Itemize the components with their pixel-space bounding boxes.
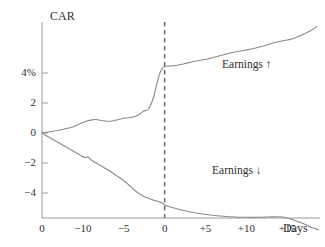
x-tick-label-5: +10 xyxy=(226,223,266,234)
car-event-study-chart: CAR Days 4%20−2−4 0−10−50+5+10+15 Earnin… xyxy=(0,0,325,247)
x-tick-label-4: +5 xyxy=(186,223,226,234)
series-lines xyxy=(42,27,318,230)
series-line-earnings-down xyxy=(42,133,318,230)
series-label-earnings-down: Earnings ↓ xyxy=(212,164,262,176)
y-tick-label-2: 0 xyxy=(4,127,36,138)
x-tick-label-2: −5 xyxy=(104,223,144,234)
y-tick-label-0: 4% xyxy=(4,67,36,78)
y-tick-label-1: 2 xyxy=(4,97,36,108)
y-tick-label-3: −2 xyxy=(4,157,36,168)
x-tick-label-6: +15 xyxy=(267,223,307,234)
series-line-earnings-up xyxy=(42,27,317,134)
y-axis-title: CAR xyxy=(50,10,75,22)
y-tick-label-4: −4 xyxy=(4,187,36,198)
chart-plot-area xyxy=(0,0,325,247)
x-tick-label-0: 0 xyxy=(22,223,62,234)
axis-lines xyxy=(42,22,320,218)
x-tick-label-3: 0 xyxy=(145,223,185,234)
series-label-earnings-up: Earnings ↑ xyxy=(222,58,272,70)
x-tick-label-1: −10 xyxy=(63,223,103,234)
